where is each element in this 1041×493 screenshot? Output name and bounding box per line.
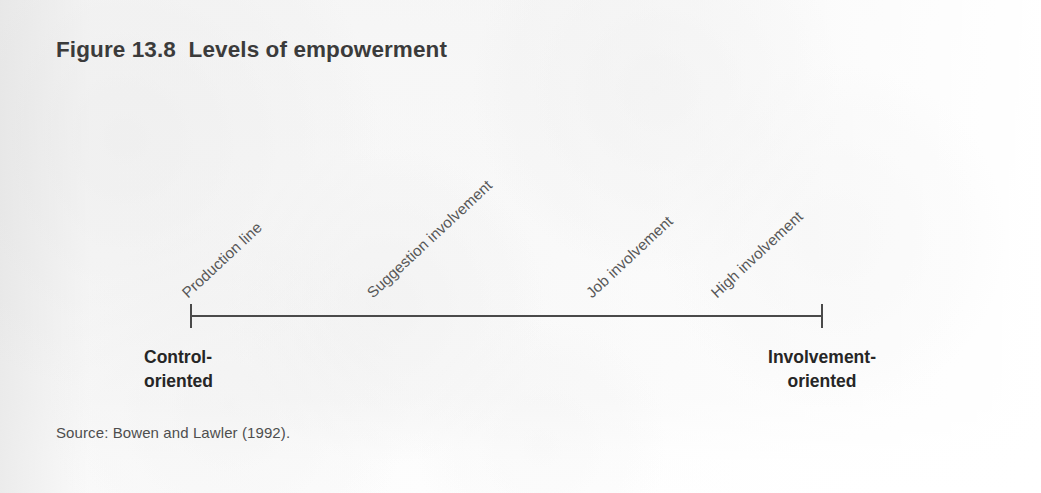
axis-pole-label-involvement-oriented: Involvement- oriented [702, 345, 942, 393]
axis-tick-right [821, 304, 823, 328]
figure-page: Figure 13.8 Levels of empowerment Produc… [0, 0, 1041, 493]
stage-label-suggestion-involvement: Suggestion involvement [363, 176, 495, 301]
stage-label-high-involvement: High involvement [707, 207, 806, 301]
figure-content: Figure 13.8 Levels of empowerment Produc… [0, 0, 1041, 493]
figure-title: Figure 13.8 Levels of empowerment [56, 36, 447, 64]
axis-tick-left [190, 304, 192, 328]
empowerment-axis-line [190, 315, 822, 317]
stage-label-production-line: Production line [178, 219, 265, 301]
source-note: Source: Bowen and Lawler (1992). [56, 424, 290, 441]
axis-pole-label-control-oriented: Control- oriented [144, 345, 213, 393]
stage-label-job-involvement: Job involvement [582, 212, 676, 301]
